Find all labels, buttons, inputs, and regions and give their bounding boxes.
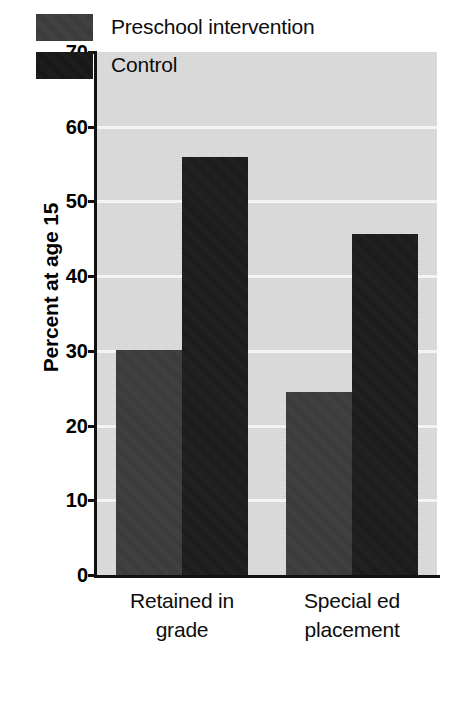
- bar-chart-figure: Percent at age 15 706050403020100 Presch…: [0, 0, 449, 712]
- y-tick-label: 0: [46, 562, 88, 588]
- x-axis-category-labels: Retained ingradeSpecial edplacement: [97, 586, 437, 672]
- gridline: [97, 200, 437, 203]
- x-axis-line: [94, 575, 440, 578]
- y-tick-label: 60: [46, 114, 88, 140]
- x-category-label-line: grade: [97, 615, 267, 644]
- bar-control-0: [182, 157, 248, 575]
- x-category-label-1: Special edplacement: [267, 586, 437, 644]
- legend-swatch-icon: [36, 52, 93, 79]
- legend-item-control: Control: [36, 46, 336, 84]
- x-category-label-line: Retained in: [97, 586, 267, 615]
- x-category-label-0: Retained ingrade: [97, 586, 267, 644]
- bar-control-1: [352, 234, 418, 575]
- y-tick-label: 40: [46, 263, 88, 289]
- gridline: [97, 126, 437, 129]
- plot-area: [97, 52, 437, 575]
- chart-legend: Preschool interventionControl: [36, 8, 336, 84]
- y-tick-label: 30: [46, 338, 88, 364]
- bar-preschool-intervention-0: [116, 350, 182, 575]
- y-tick-label: 10: [46, 487, 88, 513]
- y-tick-label: 20: [46, 413, 88, 439]
- bar-preschool-intervention-1: [286, 392, 352, 575]
- legend-label: Preschool intervention: [111, 15, 314, 39]
- y-tick-label: 50: [46, 188, 88, 214]
- legend-item-preschool-intervention: Preschool intervention: [36, 8, 336, 46]
- legend-swatch-icon: [36, 14, 93, 41]
- x-category-label-line: placement: [267, 615, 437, 644]
- legend-label: Control: [111, 53, 177, 77]
- y-axis-tick-labels: 706050403020100: [46, 52, 88, 575]
- x-category-label-line: Special ed: [267, 586, 437, 615]
